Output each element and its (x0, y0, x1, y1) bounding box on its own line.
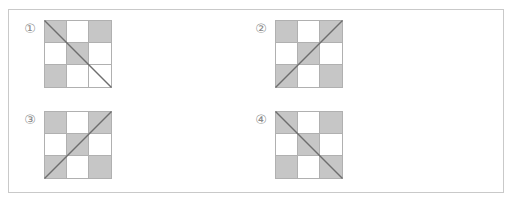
grid-cells-3 (44, 111, 112, 179)
figure-frame: ① ② (8, 9, 504, 193)
grid-cell (298, 156, 320, 178)
puzzle-grid-2 (275, 20, 343, 88)
puzzle-grid-1 (44, 20, 112, 88)
grid-cell (67, 21, 89, 43)
puzzle-label-2: ② (252, 20, 270, 38)
grid-cell (89, 43, 111, 65)
grid-cells-4 (275, 111, 343, 179)
grid-cell (320, 43, 342, 65)
grid-cells-1 (44, 20, 112, 88)
grid-cell (67, 112, 89, 134)
figure-canvas: ① ② (0, 0, 514, 205)
grid-cells-2 (275, 20, 343, 88)
grid-cell (45, 21, 67, 43)
grid-cell (67, 43, 89, 65)
puzzle-label-1: ① (21, 20, 39, 38)
grid-cell (276, 65, 298, 87)
grid-cell (89, 21, 111, 43)
puzzle-label-4: ④ (252, 111, 270, 129)
grid-cell (89, 156, 111, 178)
grid-cell (276, 43, 298, 65)
grid-cell (298, 112, 320, 134)
grid-cell (89, 134, 111, 156)
grid-cell (276, 21, 298, 43)
grid-cell (45, 156, 67, 178)
grid-cell (45, 134, 67, 156)
grid-cell (67, 156, 89, 178)
grid-cell (298, 65, 320, 87)
grid-cell (45, 43, 67, 65)
grid-cell (298, 134, 320, 156)
grid-cell (276, 134, 298, 156)
grid-cell (320, 112, 342, 134)
grid-cell (320, 65, 342, 87)
grid-cell (320, 21, 342, 43)
grid-cell (45, 112, 67, 134)
grid-cell (320, 134, 342, 156)
grid-cell (67, 134, 89, 156)
grid-cell (89, 65, 111, 87)
grid-cell (320, 156, 342, 178)
grid-cell (67, 65, 89, 87)
grid-cell (276, 112, 298, 134)
grid-cell (298, 43, 320, 65)
puzzle-grid-4 (275, 111, 343, 179)
puzzle-label-3: ③ (21, 111, 39, 129)
grid-cell (89, 112, 111, 134)
grid-cell (276, 156, 298, 178)
grid-cell (298, 21, 320, 43)
grid-cell (45, 65, 67, 87)
puzzle-grid-3 (44, 111, 112, 179)
